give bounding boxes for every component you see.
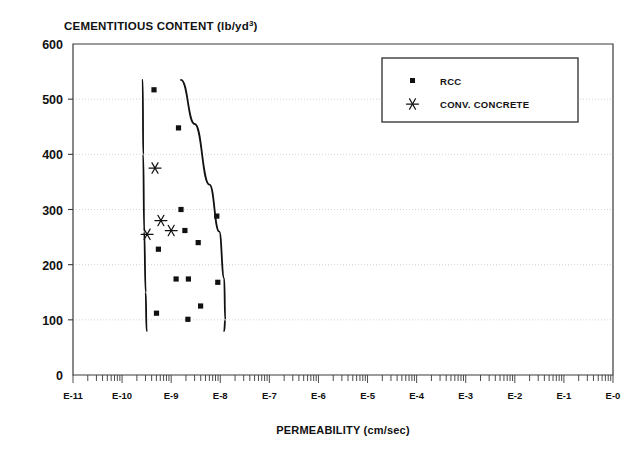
rcc-data-point [154, 311, 159, 316]
x-tick-label: E-4 [409, 390, 425, 401]
rcc-data-point [174, 276, 179, 281]
chart-title-tail: ) [254, 20, 258, 32]
rcc-data-point [214, 214, 219, 219]
x-tick-label: E-8 [213, 390, 228, 401]
permeability-cementitious-chart: CEMENTITIOUS CONTENT (lb/yd3) 6005004003… [0, 0, 643, 457]
square-marker-icon [410, 78, 415, 83]
y-tick-label: 500 [42, 93, 63, 107]
legend-box [382, 58, 578, 122]
x-tick-label: E-1 [557, 390, 573, 401]
x-tick-label: E-3 [458, 390, 473, 401]
rcc-data-point [156, 247, 161, 252]
x-tick-label: E-9 [164, 390, 179, 401]
y-tick-label: 0 [56, 369, 63, 383]
chart-title: CEMENTITIOUS CONTENT (lb/yd3) [64, 19, 258, 32]
rcc-data-point [185, 317, 190, 322]
x-tick-label: E-5 [360, 390, 376, 401]
x-tick-label: E-10 [112, 390, 132, 401]
legend-label-conv-concrete: CONV. CONCRETE [440, 99, 529, 110]
y-tick-label: 600 [42, 38, 63, 52]
rcc-data-point [178, 207, 183, 212]
rcc-data-point [215, 280, 220, 285]
rcc-data-point [198, 303, 203, 308]
chart-svg: CEMENTITIOUS CONTENT (lb/yd3) 6005004003… [0, 0, 643, 457]
y-tick-label: 300 [42, 204, 63, 218]
y-tick-label: 400 [42, 148, 63, 162]
legend: RCC CONV. CONCRETE [382, 58, 578, 122]
chart-title-main: CEMENTITIOUS CONTENT (lb/yd [64, 20, 249, 32]
y-tick-label: 100 [42, 314, 63, 328]
x-tick-label: E-0 [606, 390, 621, 401]
x-axis-label: PERMEABILITY (cm/sec) [276, 424, 410, 436]
rcc-data-point [182, 228, 187, 233]
x-tick-label: E-11 [63, 390, 83, 401]
y-tick-label: 200 [42, 259, 63, 273]
rcc-data-point [151, 87, 156, 92]
legend-label-rcc: RCC [440, 76, 461, 87]
rcc-data-point [186, 276, 191, 281]
x-tick-label: E-6 [311, 390, 326, 401]
rcc-data-point [176, 125, 181, 130]
x-tick-label: E-7 [262, 390, 277, 401]
x-tick-label: E-2 [507, 390, 522, 401]
rcc-data-point [196, 240, 201, 245]
